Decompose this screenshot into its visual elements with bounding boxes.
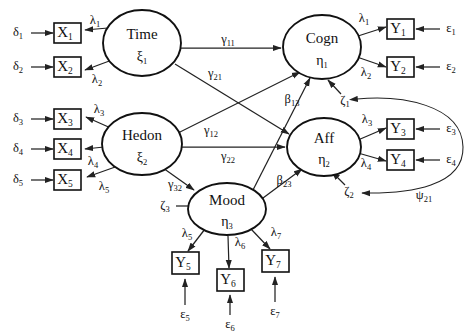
label-delta2: δ2 [13, 59, 23, 75]
structural-paths [163, 48, 310, 198]
path-psi21-covariance [357, 98, 463, 193]
label-lambda4-x: λ4 [88, 154, 99, 170]
arrow-aff-y3 [358, 128, 386, 140]
label-lambda6-mood: λ6 [235, 235, 245, 251]
label-mood-name: Mood [209, 192, 245, 208]
label-hedon-name: Hedon [122, 127, 162, 143]
label-zeta3: ζ3 [160, 198, 169, 214]
label-eps7: ε7 [270, 304, 280, 320]
label-lambda5-mood: λ5 [182, 226, 192, 242]
delta-labels: δ1 δ2 δ3 δ4 δ5 [13, 25, 24, 188]
label-lambda3-y: λ3 [362, 112, 372, 128]
ellipse-aff [287, 118, 361, 176]
x-indicator-boxes [54, 23, 81, 190]
arrow-cogn-y1 [358, 27, 386, 36]
arrow-time-x2 [85, 60, 112, 70]
label-cogn-name: Cogn [306, 30, 339, 46]
arrow-mood-y7 [251, 229, 270, 249]
label-zeta2: ζ2 [344, 184, 353, 200]
ellipse-time [103, 10, 181, 76]
label-delta5: δ5 [13, 172, 23, 188]
label-gamma22: γ22 [220, 149, 235, 165]
x-box-labels: X1 X2 X3 X4 X5 [57, 24, 73, 189]
ellipse-cogn [283, 15, 361, 79]
label-gamma12: γ12 [203, 123, 218, 139]
sem-path-diagram: X1 X2 X3 X4 X5 Y1 Y2 Y3 Y4 Y5 Y6 Y7 Time… [0, 0, 474, 336]
label-gamma21: γ21 [207, 66, 222, 82]
label-eps4: ε4 [446, 152, 456, 168]
label-beta13: β13 [285, 92, 300, 108]
label-eps2: ε2 [446, 59, 456, 75]
epsilon-to-y-arrows [416, 29, 440, 160]
path-gamma12-hedon-cogn [178, 72, 300, 133]
label-delta4: δ4 [13, 141, 24, 157]
path-gamma21-time-aff [175, 64, 289, 134]
label-beta23: β23 [277, 173, 292, 189]
delta-to-x-arrows [31, 33, 53, 180]
label-delta3: δ3 [13, 111, 23, 127]
label-time-name: Time [126, 26, 157, 42]
label-eps1: ε1 [446, 21, 456, 37]
label-lambda3-x: λ3 [94, 102, 104, 118]
label-lambda2-x: λ2 [92, 72, 102, 88]
label-lambda1-x: λ1 [90, 13, 100, 29]
arrow-mood-y6 [228, 236, 229, 268]
label-eps5: ε5 [180, 307, 190, 323]
label-lambda2-y: λ2 [361, 65, 371, 81]
label-delta1: δ1 [13, 25, 23, 41]
label-lambda4-y: λ4 [361, 156, 372, 172]
label-psi21: ψ21 [416, 188, 432, 204]
label-aff-name: Aff [314, 130, 335, 146]
ellipse-hedon [102, 113, 182, 175]
label-lambda7-mood: λ7 [271, 225, 281, 241]
label-gamma11: γ11 [220, 32, 235, 48]
label-lambda1-y: λ1 [359, 11, 369, 27]
arrow-zeta1-cogn [328, 80, 341, 94]
arrow-hedon-x4 [85, 147, 104, 149]
label-lambda5-x: λ5 [99, 179, 109, 195]
label-eps6: ε6 [225, 317, 235, 333]
label-zeta1: ζ1 [340, 93, 349, 109]
sem-canvas: X1 X2 X3 X4 X5 Y1 Y2 Y3 Y4 Y5 Y6 Y7 Time… [0, 0, 474, 336]
